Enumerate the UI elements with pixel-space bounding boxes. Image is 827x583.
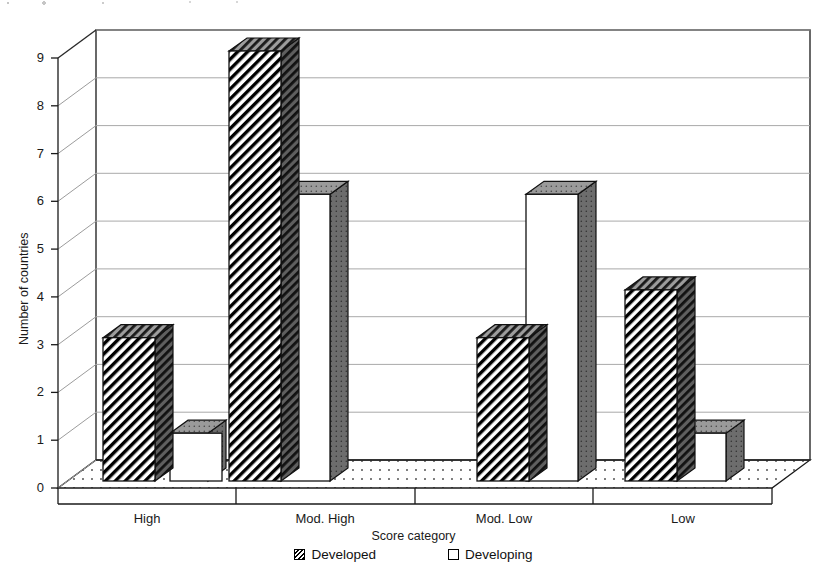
y-tick-label-7: 7 — [22, 147, 44, 160]
y-tick-label-9: 9 — [22, 51, 44, 64]
bar-chart-3d — [0, 0, 827, 583]
bar-low-developed — [625, 277, 695, 481]
chart-container: 9 8 7 6 5 4 3 2 1 0 Number of countries … — [0, 0, 827, 583]
bar-high-developed — [103, 325, 173, 481]
x-tick-label-mod-high: Mod. High — [285, 512, 365, 525]
x-axis-title: Score category — [0, 530, 827, 543]
legend-entry-developing: Developing — [448, 548, 533, 562]
x-tick-label-high: High — [107, 512, 187, 525]
y-tick-label-6: 6 — [22, 194, 44, 207]
legend-label-developed: Developed — [311, 548, 376, 562]
bar-modlow-developed — [477, 325, 547, 481]
chart-legend: Developed Developing — [0, 548, 827, 562]
y-tick-label-1: 1 — [22, 433, 44, 446]
chart-back-wall — [96, 30, 810, 460]
gridlines-depth — [58, 78, 96, 488]
legend-swatch-plain-icon — [448, 549, 459, 560]
x-tick-label-low: Low — [643, 512, 723, 525]
legend-label-developing: Developing — [465, 548, 533, 562]
left-wall-top-edge — [58, 30, 96, 58]
y-tick-label-2: 2 — [22, 385, 44, 398]
bar-modhigh-developed — [229, 38, 299, 481]
y-axis-title: Number of countries — [18, 232, 31, 345]
y-axis-ticks — [51, 58, 58, 488]
bar-high-developing — [170, 420, 226, 481]
legend-swatch-hatched-icon — [294, 549, 305, 560]
gridlines-horizontal — [96, 30, 810, 412]
y-tick-label-8: 8 — [22, 99, 44, 112]
y-tick-label-0: 0 — [22, 481, 44, 494]
x-tick-label-mod-low: Mod. Low — [464, 512, 544, 525]
legend-entry-developed: Developed — [294, 548, 376, 562]
x-axis — [58, 488, 772, 504]
